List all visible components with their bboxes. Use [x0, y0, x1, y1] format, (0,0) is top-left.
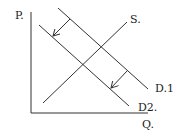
shift-arrow-lower — [111, 71, 127, 88]
supply-label: S. — [130, 13, 141, 26]
supply-curve — [43, 22, 127, 103]
supply-demand-diagram: P. S. D.1 D2. Q. — [0, 0, 179, 134]
demand2-label: D2. — [138, 101, 157, 114]
demand1-label: D.1 — [155, 82, 174, 95]
y-axis-label: P. — [15, 9, 24, 22]
shift-arrow-upper — [53, 19, 70, 36]
x-axis-label: Q. — [142, 118, 154, 131]
